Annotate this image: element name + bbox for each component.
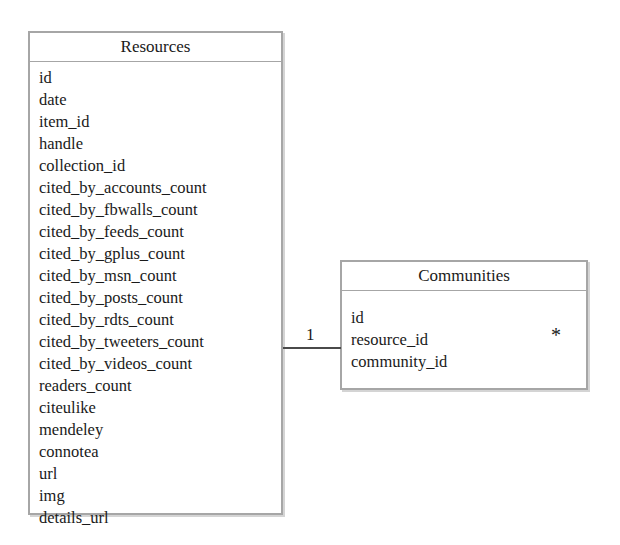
attribute-row: cited_by_rdts_count xyxy=(30,309,281,331)
relationship-connector-line xyxy=(283,347,341,349)
er-diagram-canvas: Resources id date item_id handle collect… xyxy=(0,0,620,545)
multiplicity-label-target: * xyxy=(551,325,561,345)
attribute-row: community_id xyxy=(342,351,586,373)
attribute-row: readers_count xyxy=(30,375,281,397)
attribute-row: resource_id xyxy=(342,329,586,351)
attribute-row: cited_by_posts_count xyxy=(30,287,281,309)
attribute-row: cited_by_msn_count xyxy=(30,265,281,287)
attribute-row: date xyxy=(30,89,281,111)
attribute-row: cited_by_fbwalls_count xyxy=(30,199,281,221)
attribute-list-resources: id date item_id handle collection_id cit… xyxy=(30,62,281,535)
attribute-row: id xyxy=(342,307,586,329)
attribute-row: details_url xyxy=(30,507,281,529)
attribute-row: citeulike xyxy=(30,397,281,419)
attribute-row: id xyxy=(30,67,281,89)
attribute-row: item_id xyxy=(30,111,281,133)
attribute-row: cited_by_accounts_count xyxy=(30,177,281,199)
attribute-row: img xyxy=(30,485,281,507)
attribute-list-communities: id resource_id community_id xyxy=(342,291,586,379)
attribute-row: cited_by_videos_count xyxy=(30,353,281,375)
attribute-row: url xyxy=(30,463,281,485)
multiplicity-label-source: 1 xyxy=(306,325,315,345)
entity-title-communities: Communities xyxy=(342,262,586,291)
attribute-row: handle xyxy=(30,133,281,155)
attribute-row: mendeley xyxy=(30,419,281,441)
attribute-row: connotea xyxy=(30,441,281,463)
attribute-row: cited_by_tweeters_count xyxy=(30,331,281,353)
entity-resources[interactable]: Resources id date item_id handle collect… xyxy=(28,31,283,515)
attribute-row: cited_by_feeds_count xyxy=(30,221,281,243)
attribute-row: cited_by_gplus_count xyxy=(30,243,281,265)
entity-title-resources: Resources xyxy=(30,33,281,62)
attribute-row: collection_id xyxy=(30,155,281,177)
